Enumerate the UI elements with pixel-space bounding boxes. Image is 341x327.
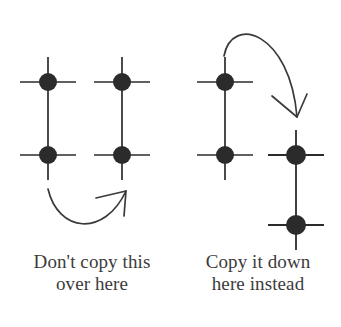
right-panel-group [197,34,324,250]
node-top-dot [216,73,234,91]
column-c [197,57,253,180]
node-lower-dot [286,215,306,235]
column-d [268,130,324,250]
arrow-downward-accepted-head [272,94,307,117]
node-bottom-dot [216,146,234,164]
caption-right: Copy it down here instead [178,251,338,295]
arrow-downward-accepted [224,34,307,117]
node-upper-dot [286,145,306,165]
node-bottom-dot [113,146,131,164]
diagram-figure: Don't copy this over here Copy it down h… [0,0,341,327]
node-bottom-dot [39,146,57,164]
column-b [94,57,150,180]
left-panel-group [20,57,150,224]
caption-left: Don't copy this over here [2,251,182,295]
arrow-sideways-rejected [48,189,126,224]
node-top-dot [113,73,131,91]
column-a [20,57,76,180]
node-top-dot [39,73,57,91]
arrow-downward-accepted-curve [224,34,297,117]
